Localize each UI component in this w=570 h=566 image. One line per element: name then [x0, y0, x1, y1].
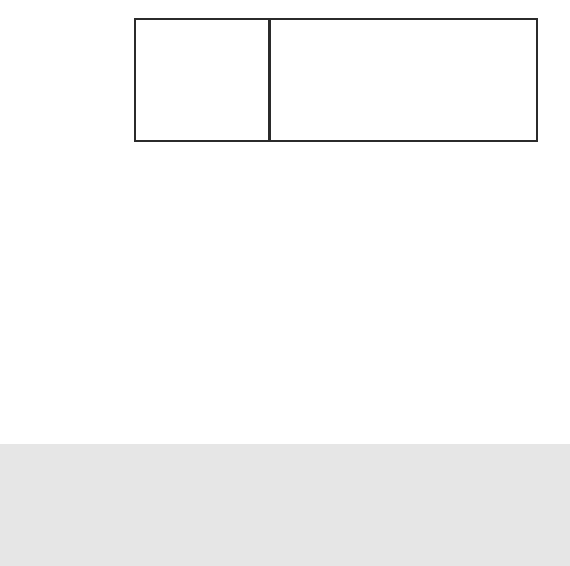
- layer4-frame-full: [134, 18, 538, 142]
- layer4-label: [0, 48, 130, 64]
- gray-background-band: [0, 444, 570, 566]
